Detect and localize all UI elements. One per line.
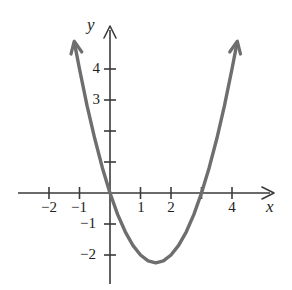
y-tick-label-4: 4 [72, 61, 100, 76]
x-axis-label: x [266, 198, 274, 215]
parabola-path [75, 45, 237, 263]
coordinate-plane [0, 0, 292, 290]
x-tick-label-2: 2 [158, 200, 184, 215]
x-tick-label-4: 4 [219, 200, 245, 215]
x-tick-label--2: −2 [36, 200, 62, 215]
y-tick-label--1: −1 [68, 216, 96, 231]
y-axis-label: y [87, 16, 95, 33]
x-tick-label--1: −1 [66, 200, 92, 215]
y-axis [104, 26, 116, 284]
graph-figure: y x −2 −1 1 2 4 4 3 −1 −2 [0, 0, 292, 290]
x-axis [18, 187, 274, 199]
y-tick-label-3: 3 [72, 92, 100, 107]
y-tick-label--2: −2 [68, 247, 96, 262]
x-tick-label-1: 1 [128, 200, 154, 215]
